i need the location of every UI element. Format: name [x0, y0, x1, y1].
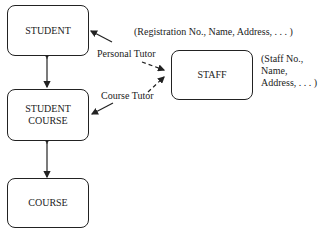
staff-attr-line3: Address, . . . ) — [261, 77, 317, 89]
student-label: STUDENT — [25, 25, 71, 37]
student-course-label-line2: COURSE — [28, 115, 67, 127]
course-label: COURSE — [28, 197, 67, 209]
course-entity: COURSE — [7, 178, 89, 228]
staff-entity: STAFF — [171, 50, 253, 100]
personal-tutor-label: Personal Tutor — [97, 48, 156, 60]
student-attributes: (Registration No., Name, Address, . . . … — [134, 26, 293, 38]
staff-attr-line1: (Staff No., — [261, 53, 317, 65]
staff-attr-line2: Name, — [261, 65, 317, 77]
staff-label: STAFF — [197, 69, 226, 81]
course-tutor-label: Course Tutor — [101, 90, 154, 102]
student-entity: STUDENT — [7, 5, 89, 56]
student-course-label-line1: STUDENT — [25, 103, 71, 115]
student-course-entity: STUDENT COURSE — [7, 89, 89, 141]
staff-attributes: (Staff No., Name, Address, . . . ) — [261, 53, 317, 89]
